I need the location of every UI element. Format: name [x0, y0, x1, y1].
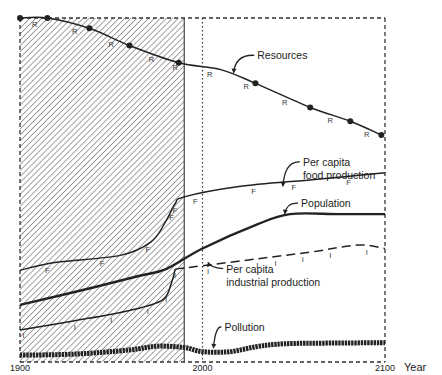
series-marker-per-capita-food-production: F	[45, 266, 50, 275]
data-point-resources	[127, 43, 133, 49]
x-tick-label-2100: 2100	[375, 363, 395, 373]
series-marker-resources: R	[32, 20, 38, 29]
data-point-resources	[86, 25, 92, 31]
series-label-resources: Resources	[257, 49, 307, 61]
x-tick-label-1900: 1900	[10, 363, 30, 373]
series-marker-resources: R	[109, 40, 115, 49]
series-marker-per-capita-food-production: F	[173, 206, 178, 215]
series-marker-per-capita-industrial-production: I	[74, 323, 76, 332]
annotation-arrowhead-pollution	[211, 344, 216, 349]
series-label-population: Population	[301, 197, 351, 209]
data-point-resources	[347, 118, 353, 124]
series-label-per-capita-food-production: Per capita	[303, 156, 350, 168]
series-marker-per-capita-industrial-production: I	[207, 267, 209, 276]
series-line-per-capita-industrial-production-projected	[175, 245, 385, 269]
series-marker-per-capita-industrial-production: I	[274, 259, 276, 268]
world-model-chart: RRRRRRRRRRFFFFFFFFFIIIIIIIIIIII Resource…	[0, 0, 442, 375]
data-point-resources	[17, 15, 23, 21]
series-marker-per-capita-industrial-production: I	[110, 316, 112, 325]
series-marker-resources: R	[72, 27, 78, 36]
series-label-per-capita-industrial-production: industrial production	[226, 276, 320, 288]
x-tick-label-2000: 2000	[192, 363, 212, 373]
annotation-arrowhead-per-capita-food-production	[281, 182, 286, 186]
series-label-pollution: Pollution	[224, 321, 264, 333]
series-marker-resources: R	[282, 98, 288, 107]
series-label-per-capita-food-production: food production	[303, 169, 376, 181]
series-marker-per-capita-food-production: F	[193, 197, 198, 206]
series-marker-resources: R	[172, 63, 178, 72]
series-marker-per-capita-food-production: F	[291, 183, 296, 192]
series-label-per-capita-industrial-production: Per capita	[226, 263, 273, 275]
data-point-resources	[252, 80, 258, 86]
series-marker-per-capita-food-production: F	[145, 245, 150, 254]
series-marker-resources: R	[244, 82, 250, 91]
series-marker-per-capita-industrial-production: I	[366, 248, 368, 257]
series-marker-per-capita-food-production: F	[251, 187, 256, 196]
series-marker-per-capita-food-production: F	[100, 259, 105, 268]
historical-shading	[20, 18, 184, 362]
series-marker-per-capita-industrial-production: I	[147, 307, 149, 316]
series-marker-resources: R	[149, 55, 155, 64]
series-marker-per-capita-industrial-production: I	[23, 331, 25, 340]
data-point-resources	[44, 15, 50, 21]
series-marker-resources: R	[364, 130, 370, 139]
series-marker-per-capita-industrial-production: I	[302, 255, 304, 264]
series-marker-resources: R	[328, 116, 334, 125]
x-axis-label: Year	[404, 361, 427, 373]
series-marker-resources: R	[207, 70, 213, 79]
series-marker-per-capita-industrial-production: I	[174, 271, 176, 280]
data-point-resources	[307, 104, 313, 110]
data-point-resources	[378, 132, 384, 138]
annotation-arrowhead-resources	[231, 68, 236, 73]
series-marker-per-capita-industrial-production: I	[329, 251, 331, 260]
series-marker-per-capita-industrial-production: I	[165, 295, 167, 304]
annotation-arrow-resources	[234, 55, 255, 73]
